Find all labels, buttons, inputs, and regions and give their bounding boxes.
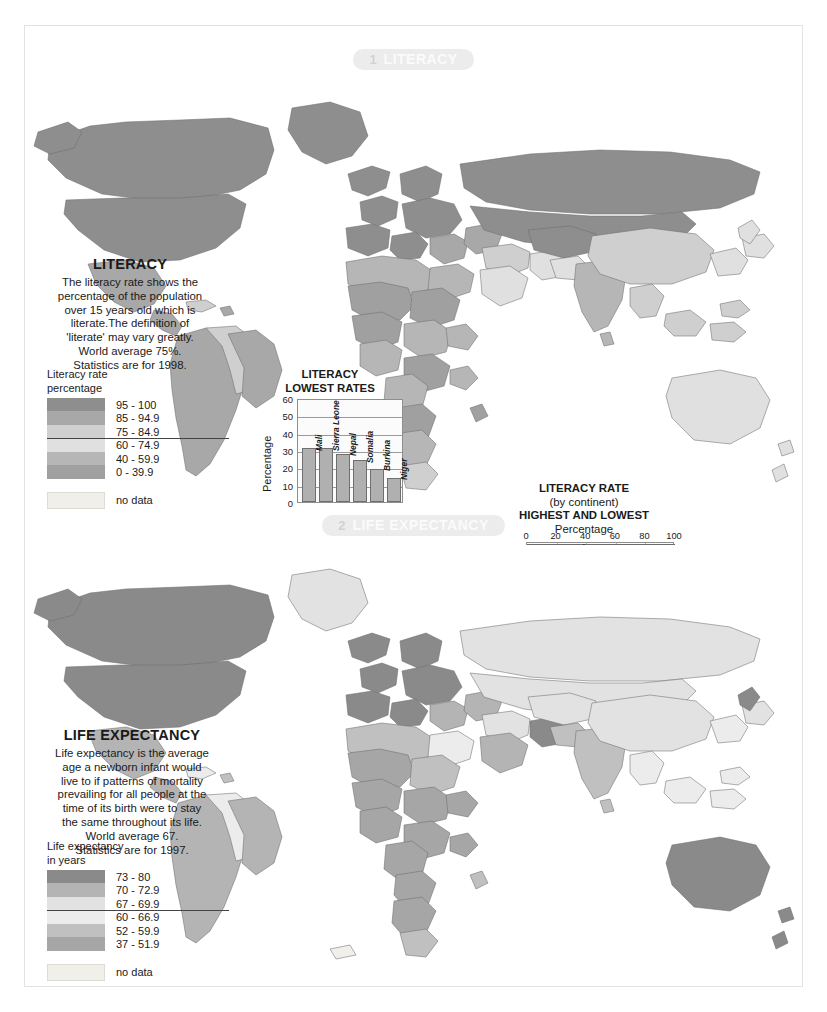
legend-no-data-label: no data [116,494,153,506]
bar-somalia [353,460,367,502]
legend-swatch [47,937,105,951]
legend-divider [47,910,229,911]
bar-label: Sierra Leone [331,400,341,451]
literacy-description: LITERACY The literacy rate shows the per… [30,256,230,373]
legend-swatch-no-data [47,964,105,981]
legend-swatch [47,465,105,479]
chart-title-line2: (by continent) [480,496,688,510]
literacy-description-line-1: The literacy rate shows the [30,276,230,290]
legend-band: 0 - 39.9 [47,465,229,479]
legend-swatch [47,425,105,439]
chart-title-line1: LITERACY [255,368,405,382]
legend-band-label: 52 - 59.9 [116,925,159,937]
y-tick: 0 [269,498,293,509]
legend-swatch [47,897,105,911]
legend-band: 85 - 94.9 [47,411,229,425]
legend-band-label: 40 - 59.9 [116,453,159,465]
life-description-line-4: prevailing for all people at the [26,788,238,802]
legend-band: 75 - 84.9 [47,425,229,439]
bar-label: Somalia [365,431,375,463]
legend-band-label: 0 - 39.9 [116,466,153,478]
bar-mali [302,448,316,502]
legend-band-label: 75 - 84.9 [116,426,159,438]
y-tick: 50 [269,411,293,422]
section-number: 2 [338,518,345,533]
y-tick: 60 [269,394,293,405]
bar-burkina [370,469,384,502]
section-pill-literacy: 1 LITERACY [353,49,473,70]
legend-no-data-label: no data [116,966,153,978]
life-legend-title-line2: in years [47,854,229,867]
legend-band-label: 85 - 94.9 [116,412,159,424]
section-banner-life-expectancy: 2 LIFE EXPECTANCY [0,514,827,536]
literacy-description-line-3: over 15 years old which is [30,304,230,318]
legend-band: 70 - 72.9 [47,883,229,897]
legend-band: 60 - 74.9 [47,438,229,452]
section-banner-literacy: 1 LITERACY [0,48,827,70]
legend-swatch [47,883,105,897]
bar-label: Burkina [382,440,392,471]
legend-band: 95 - 100 [47,398,229,412]
section-title: LITERACY [384,51,458,67]
chart-plot-area: Mali Sierra Leone Nepal Somalia Burkina … [297,399,403,503]
life-expectancy-legend: Life expectancy in years 73 - 80 70 - 72… [47,840,229,981]
bar-label: Mali [314,435,324,451]
legend-swatch [47,452,105,466]
bar-label: Niger [399,459,409,480]
life-description-line-6: the same throughout its life. [26,816,238,830]
legend-swatch [47,411,105,425]
y-tick: 40 [269,429,293,440]
legend-swatch [47,924,105,938]
literacy-legend-title-line2: percentage [47,382,229,395]
legend-swatch [47,910,105,924]
legend-band-label: 95 - 100 [116,399,156,411]
life-expectancy-description: LIFE EXPECTANCY Life expectancy is the a… [26,727,238,858]
literacy-legend: Literacy rate percentage 95 - 100 85 - 9… [47,368,229,509]
legend-band-label: 67 - 69.9 [116,898,159,910]
legend-swatch [47,438,105,452]
section-number: 1 [369,52,376,67]
literacy-lowest-rates-chart: LITERACY LOWEST RATES Percentage Mali Si… [255,368,405,510]
legend-band: 67 - 69.9 [47,897,229,911]
life-description-line-3: live to if patterns of mortality [26,775,238,789]
legend-band-label: 73 - 80 [116,871,150,883]
literacy-description-line-4: literate.The definition of [30,317,230,331]
section-title: LIFE EXPECTANCY [352,517,488,533]
legend-band-label: 37 - 51.9 [116,938,159,950]
life-description-heading: LIFE EXPECTANCY [26,727,238,745]
y-tick: 10 [269,481,293,492]
legend-swatch [47,398,105,412]
y-tick: 30 [269,446,293,457]
bar-label: Nepal [348,433,358,456]
bar-nepal [336,454,350,503]
legend-divider [47,438,229,439]
legend-band: 73 - 80 [47,870,229,884]
legend-band-label: 60 - 74.9 [116,439,159,451]
legend-band: 60 - 66.9 [47,910,229,924]
legend-band-label: 60 - 66.9 [116,911,159,923]
legend-swatch-no-data [47,492,105,509]
legend-band-label: 70 - 72.9 [116,884,159,896]
bar-sierra-leone [319,448,333,502]
life-description-line-2: age a newborn infant would [26,761,238,775]
legend-swatch [47,870,105,884]
literacy-description-line-6: World average 75%. [30,345,230,359]
life-legend-no-data: no data [47,964,229,981]
literacy-legend-title-line1: Literacy rate [47,368,229,381]
life-legend-bands: 73 - 80 70 - 72.9 67 - 69.9 60 - 66.9 52… [47,870,229,951]
life-description-line-5: time of its birth were to stay [26,802,238,816]
life-description-line-1: Life expectancy is the average [26,747,238,761]
literacy-description-heading: LITERACY [30,256,230,274]
bar-niger [387,478,401,502]
literacy-description-line-5: 'literate' may vary greatly. [30,331,230,345]
literacy-description-line-2: percentage of the population [30,290,230,304]
chart-title-line1: LITERACY RATE [480,482,688,496]
legend-band: 52 - 59.9 [47,924,229,938]
life-legend-title-line1: Life expectancy [47,840,229,853]
page-root: 1 LITERACY .c95{fill:#8e8e8e}.c85{fill:#… [0,0,827,1012]
literacy-legend-bands: 95 - 100 85 - 94.9 75 - 84.9 60 - 74.9 4… [47,398,229,479]
literacy-legend-no-data: no data [47,492,229,509]
y-tick: 20 [269,463,293,474]
legend-band: 37 - 51.9 [47,937,229,951]
section-pill-life-expectancy: 2 LIFE EXPECTANCY [322,515,505,536]
